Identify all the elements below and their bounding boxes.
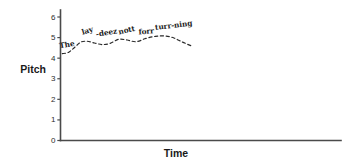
syllable-label: lay [81, 25, 95, 37]
chart-canvas: 0123456 Thelay-deeznottforrturr-ning Pit… [0, 0, 347, 165]
syllable-label: turr-ning [155, 18, 193, 31]
y-axis-title: Pitch [20, 63, 46, 75]
y-axis-tick-label: 3 [51, 74, 56, 83]
syllable-label: forr [138, 26, 154, 36]
pitch-contour-line [62, 36, 191, 54]
x-axis-title: Time [164, 147, 188, 159]
y-axis-tick-label: 2 [51, 95, 56, 104]
syllable-label: nott [117, 24, 136, 37]
y-axis-tick-label: 1 [51, 115, 56, 124]
syllable-annotations: Thelay-deeznottforrturr-ning [59, 18, 193, 50]
pitch-contour-figure: 0123456 Thelay-deeznottforrturr-ning Pit… [0, 0, 347, 165]
y-axis-tick-label: 5 [51, 33, 56, 42]
y-axis-tick-label: 6 [51, 13, 56, 22]
syllable-label: -deez [95, 27, 117, 39]
y-axis-ticks: 0123456 [51, 13, 60, 146]
pitch-contour-path [62, 36, 191, 54]
y-axis-tick-label: 0 [51, 136, 56, 145]
y-axis-tick-label: 4 [51, 54, 56, 63]
